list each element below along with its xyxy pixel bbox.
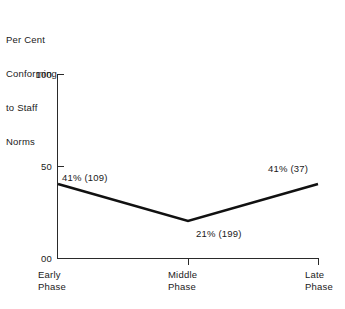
x-category-label-late-line-1: Late (305, 269, 324, 280)
x-category-label-late-line-2: Phase (305, 281, 333, 292)
data-label-late-phase: 41% (37) (268, 163, 308, 174)
x-category-label-middle-line-1: Middle (168, 269, 197, 280)
chart-container: Per Cent Conforming to Staff Norms 100 5… (0, 0, 345, 309)
data-line-series-1 (58, 184, 318, 221)
y-tick-label-0: 00 (41, 253, 52, 264)
x-category-label-early-line-2: Phase (38, 281, 66, 292)
plot-area: 100 50 00 41% (109) 21% (199) 41% (37) E… (0, 0, 345, 309)
data-label-middle-phase: 21% (199) (196, 228, 242, 239)
x-category-label-middle-line-2: Phase (168, 281, 196, 292)
data-label-early-phase: 41% (109) (62, 172, 108, 183)
y-tick-label-50: 50 (41, 161, 52, 172)
y-tick-label-100: 100 (36, 69, 52, 80)
x-category-label-early-line-1: Early (38, 269, 61, 280)
